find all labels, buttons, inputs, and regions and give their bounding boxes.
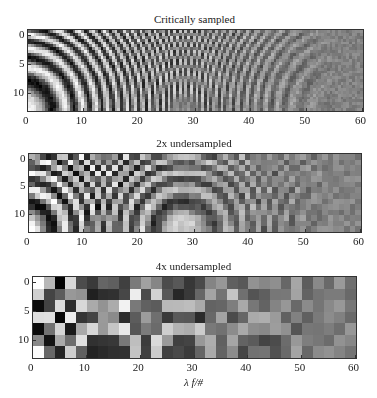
y-tick: [29, 159, 32, 160]
x-tick: [194, 229, 195, 232]
x-tick-label: 30: [187, 361, 198, 373]
x-tick: [195, 108, 196, 111]
x-tick: [83, 108, 84, 111]
x-tick: [247, 355, 248, 358]
x-tick: [301, 355, 302, 358]
x-tick-label: 40: [240, 361, 251, 373]
x-tick-label: 60: [353, 235, 364, 247]
x-tick: [250, 108, 251, 111]
chart-title: Critically sampled: [154, 13, 235, 25]
x-tick-label: 10: [76, 235, 87, 247]
x-tick: [355, 355, 356, 358]
y-tick: [29, 186, 32, 187]
x-tick: [194, 355, 195, 358]
y-tick-label: 10: [18, 333, 29, 345]
heatmap-image: [32, 276, 357, 359]
chart-title: 2x undersampled: [156, 137, 231, 149]
x-tick-label: 50: [298, 235, 309, 247]
x-tick-label: 10: [76, 114, 87, 126]
x-tick: [139, 108, 140, 111]
y-tick-label: 5: [24, 304, 30, 316]
y-tick-label: 0: [20, 152, 26, 164]
chart-title: 4x undersampled: [156, 260, 231, 272]
y-tick-label: 0: [19, 28, 25, 40]
x-tick: [306, 108, 307, 111]
x-tick-label: 50: [299, 114, 310, 126]
x-tick-label: 20: [132, 114, 143, 126]
y-tick-label: 0: [24, 275, 30, 287]
y-tick: [28, 64, 31, 65]
x-axis-label: λ f/#: [184, 376, 203, 388]
x-tick: [83, 229, 84, 232]
y-tick-label: 10: [14, 207, 25, 219]
y-tick: [33, 282, 36, 283]
y-tick-label: 5: [19, 57, 25, 69]
x-tick-label: 40: [242, 235, 253, 247]
heatmap-image: [28, 153, 362, 233]
x-tick: [362, 108, 363, 111]
x-tick: [140, 355, 141, 358]
y-tick: [28, 35, 31, 36]
x-tick: [305, 229, 306, 232]
x-tick-label: 60: [355, 114, 366, 126]
x-tick: [32, 355, 33, 358]
y-tick-label: 10: [13, 86, 24, 98]
x-tick: [249, 229, 250, 232]
x-tick-label: 30: [188, 114, 199, 126]
y-tick: [28, 93, 31, 94]
x-tick-label: 10: [79, 361, 90, 373]
x-tick: [360, 229, 361, 232]
y-tick: [33, 340, 36, 341]
x-tick: [27, 108, 28, 111]
x-tick-label: 50: [294, 361, 305, 373]
x-tick-label: 30: [187, 235, 198, 247]
heatmap-image: [27, 29, 364, 112]
x-tick-label: 20: [133, 361, 144, 373]
x-tick-label: 60: [348, 361, 359, 373]
x-tick: [28, 229, 29, 232]
x-tick-label: 20: [132, 235, 143, 247]
x-tick-label: 0: [23, 114, 29, 126]
x-tick: [139, 229, 140, 232]
x-tick-label: 40: [243, 114, 254, 126]
x-tick-label: 0: [28, 361, 34, 373]
x-tick-label: 0: [24, 235, 30, 247]
x-tick: [86, 355, 87, 358]
y-tick: [33, 311, 36, 312]
y-tick: [29, 214, 32, 215]
y-tick-label: 5: [20, 179, 26, 191]
